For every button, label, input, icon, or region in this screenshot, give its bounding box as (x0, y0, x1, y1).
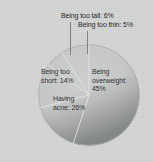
leader-line-being-too-thin (87, 31, 88, 54)
pie-label-being-overweight: Being overweight: 45% (92, 68, 127, 94)
pie-label-being-too-thin: Being too thin: 5% (78, 21, 133, 30)
pie-label-having-acne: Having acne: 26% (53, 95, 85, 112)
pie-label-being-too-tall: Being too tall: 6% (61, 12, 114, 21)
pie-chart-figure: Being too tall: 6% Being too thin: 5% Be… (0, 0, 154, 162)
pie-label-being-too-short: Being too short: 14% (41, 68, 73, 85)
leader-line-being-too-tall (70, 22, 71, 55)
